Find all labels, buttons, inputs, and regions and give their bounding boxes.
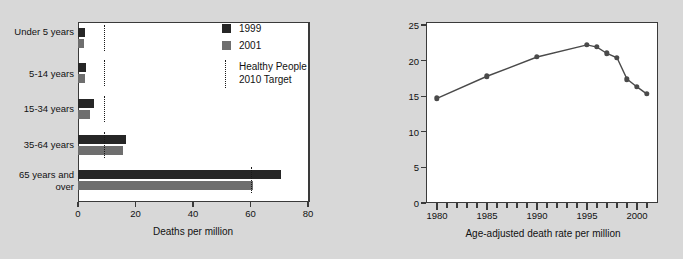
bar-2001-65-and-over <box>78 181 253 190</box>
bar-2001-35-64 <box>78 146 123 155</box>
target-line-under-5 <box>104 25 105 51</box>
y-tick-label-0: 0 <box>400 198 419 209</box>
x-tick-label-1990: 1990 <box>526 210 547 221</box>
x-tick-1985 <box>486 203 487 210</box>
x-tick-1983 <box>466 203 467 208</box>
x-tick-1996 <box>596 203 597 208</box>
bar-2001-under-5 <box>78 39 84 48</box>
legend-label-target: Healthy People 2010 Target <box>239 60 307 86</box>
target-line-15-34 <box>104 96 105 122</box>
y-tick-label-10: 10 <box>400 126 419 137</box>
bar-1999-15-34 <box>78 99 94 108</box>
x-tick-label-1995: 1995 <box>576 210 597 221</box>
x-tick-60 <box>250 202 251 207</box>
x-tick-1992 <box>556 203 557 208</box>
y-tick-15 <box>421 96 426 97</box>
legend-label-2001: 2001 <box>239 39 261 52</box>
figure-container: Under 5 years 5-14 years 15-34 years 35-… <box>0 0 683 259</box>
x-tick-label-1985: 1985 <box>476 210 497 221</box>
x-tick-2001 <box>646 203 647 208</box>
y-tick-10 <box>421 131 426 132</box>
legend-swatch-1999 <box>222 24 231 33</box>
y-tick-label-25: 25 <box>400 20 419 31</box>
bar-1999-5-14 <box>78 63 86 72</box>
dotted-line-icon <box>225 60 226 88</box>
bar-chart-x-axis-title: Deaths per million <box>78 226 308 237</box>
x-tick-label-60: 60 <box>245 208 256 219</box>
y-tick-label-5: 5 <box>400 162 419 173</box>
bar-1999-35-64 <box>78 135 126 144</box>
y-tick-5 <box>421 167 426 168</box>
legend-swatch-2001 <box>222 41 231 50</box>
y-tick-label-15: 15 <box>400 91 419 102</box>
bar-1999-65-and-over <box>78 170 281 179</box>
x-tick-1999 <box>626 203 627 208</box>
x-tick-40 <box>192 202 193 207</box>
x-tick-1994 <box>576 203 577 208</box>
x-tick-1998 <box>616 203 617 208</box>
x-tick-1982 <box>456 203 457 208</box>
x-tick-1991 <box>546 203 547 208</box>
x-tick-1990 <box>536 203 537 210</box>
x-tick-1980 <box>436 203 437 210</box>
y-tick-25 <box>421 24 426 25</box>
bar-2001-15-34 <box>78 110 90 119</box>
bar-2001-5-14 <box>78 74 85 83</box>
x-tick-label-80: 80 <box>303 208 314 219</box>
legend-row-2001: 2001 <box>222 39 337 54</box>
bar-chart-panel: Under 5 years 5-14 years 15-34 years 35-… <box>0 0 342 259</box>
x-tick-1993 <box>566 203 567 208</box>
target-line-5-14 <box>104 60 105 86</box>
x-tick-label-2000: 2000 <box>626 210 647 221</box>
category-label-65-and-over: 65 years and over <box>2 169 74 192</box>
y-tick-20 <box>421 60 426 61</box>
bar-chart-legend: 1999 2001 Healthy People 2010 Target <box>222 22 337 90</box>
legend-row-target: Healthy People 2010 Target <box>222 60 337 90</box>
x-tick-label-0: 0 <box>75 208 80 219</box>
category-label-5-14: 5-14 years <box>2 68 74 80</box>
x-tick-label-40: 40 <box>188 208 199 219</box>
line-chart-x-axis-title: Age-adjusted death rate per million <box>414 228 672 239</box>
x-tick-1987 <box>506 203 507 208</box>
category-label-15-34: 15-34 years <box>2 103 74 115</box>
category-label-35-64: 35-64 years <box>2 139 74 151</box>
x-tick-1986 <box>496 203 497 208</box>
x-tick-1981 <box>446 203 447 208</box>
target-line-65-and-over <box>251 167 252 193</box>
x-tick-80 <box>307 202 308 207</box>
x-tick-1995 <box>586 203 587 210</box>
legend-label-1999: 1999 <box>239 22 261 35</box>
x-tick-20 <box>135 202 136 207</box>
y-tick-label-20: 20 <box>400 55 419 66</box>
legend-row-1999: 1999 <box>222 22 337 37</box>
x-tick-1984 <box>476 203 477 208</box>
bar-1999-under-5 <box>78 28 85 37</box>
x-tick-1997 <box>606 203 607 208</box>
x-tick-2000 <box>636 203 637 210</box>
x-tick-1988 <box>516 203 517 208</box>
x-tick-label-1980: 1980 <box>426 210 447 221</box>
x-tick-1989 <box>526 203 527 208</box>
line-chart-panel: 0510152025 19801985199019952000 Age-adju… <box>400 0 683 259</box>
x-tick-label-20: 20 <box>130 208 141 219</box>
y-tick-0 <box>421 202 426 203</box>
x-tick-0 <box>77 202 78 207</box>
target-line-35-64 <box>104 132 105 158</box>
category-label-under-5: Under 5 years <box>2 26 74 38</box>
